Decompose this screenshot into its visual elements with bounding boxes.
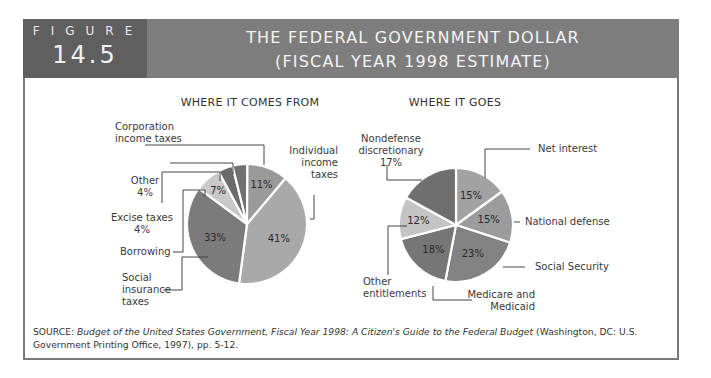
label-net-interest: Net interest bbox=[538, 143, 597, 155]
pie-value-label: 15% bbox=[460, 190, 482, 201]
label-other: Other 4% bbox=[127, 175, 163, 199]
label-social-security: Social Security bbox=[535, 261, 609, 273]
label-other-entitlements: Other entitlements bbox=[363, 276, 426, 300]
pie-where-it-comes-from: 41%33%7%11% bbox=[187, 164, 307, 284]
label-individual-income-taxes: Individual income taxes bbox=[268, 145, 338, 181]
source-prefix: SOURCE: bbox=[33, 326, 77, 337]
label-national-defense: National defense bbox=[525, 216, 610, 228]
label-nondefense-discretionary: Nondefense discretionary 17% bbox=[355, 133, 427, 169]
source-title: Budget of the United States Government, … bbox=[77, 326, 533, 337]
pie-value-label: 12% bbox=[407, 215, 429, 226]
pie-value-label: 23% bbox=[462, 248, 484, 259]
pie-where-it-goes: 15%15%23%18%12% bbox=[399, 168, 513, 282]
pie-value-label: 18% bbox=[422, 244, 444, 255]
pie-charts: 41%33%7%11% 15%15%23%18%12% bbox=[0, 0, 711, 378]
pie-value-label: 33% bbox=[204, 232, 226, 243]
label-corporation-income-taxes: Corporation income taxes bbox=[115, 121, 182, 145]
source-citation: SOURCE: Budget of the United States Gove… bbox=[33, 325, 673, 351]
pie-value-label: 7% bbox=[210, 185, 226, 196]
label-social-insurance-taxes: Social insurance taxes bbox=[122, 272, 171, 308]
label-borrowing: Borrowing bbox=[120, 246, 171, 258]
label-medicare-and-medicaid: Medicare and Medicaid bbox=[455, 289, 535, 313]
pie-value-label: 15% bbox=[478, 214, 500, 225]
pie-value-label: 41% bbox=[268, 233, 290, 244]
label-excise-taxes: Excise taxes 4% bbox=[108, 212, 176, 236]
